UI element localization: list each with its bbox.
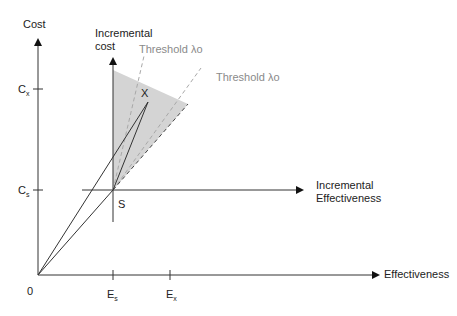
cost-effectiveness-plane-diagram: Cost Effectiveness 0 Incremental cost In… [0, 0, 457, 316]
y-axis-label: Cost [23, 18, 46, 30]
incremental-effectiveness-label-line1: Incremental [316, 179, 373, 191]
origin-label: 0 [27, 285, 33, 297]
tick-label-cx: Cx [18, 83, 30, 97]
incremental-cost-label-line2: cost [95, 40, 115, 52]
point-x-label: X [141, 87, 149, 99]
threshold-label-steep: Threshold λo [139, 43, 203, 55]
tick-label-es: Es [107, 288, 118, 302]
incremental-cost-label-line1: Incremental [95, 27, 152, 39]
tick-label-ex: Ex [166, 288, 177, 302]
line-origin-to-s [38, 190, 113, 275]
incremental-effectiveness-label-line2: Effectiveness [316, 192, 382, 204]
line-origin-to-x [38, 102, 148, 275]
x-axis-label: Effectiveness [384, 268, 450, 280]
threshold-label-shallow: Threshold λo [216, 71, 280, 83]
shaded-region [113, 70, 188, 190]
tick-label-cs: Cs [18, 184, 30, 198]
point-s-label: S [118, 198, 125, 210]
